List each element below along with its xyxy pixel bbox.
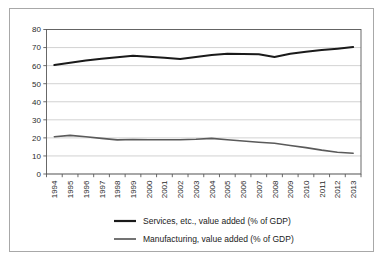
x-tick-label: 2013 [349, 180, 358, 198]
y-axis-ticks [43, 30, 46, 175]
x-tick-label: 2007 [255, 180, 264, 198]
chart-legend: Services, etc., value added (% of GDP)Ma… [114, 216, 294, 244]
y-axis-tick-labels: 01020304050607080 [32, 25, 41, 179]
y-tick-label: 20 [32, 134, 41, 143]
y-tick-label: 60 [32, 62, 41, 71]
x-tick-label: 1998 [113, 180, 122, 198]
x-tick-label: 1997 [98, 180, 107, 198]
x-tick-label: 2012 [333, 180, 342, 198]
x-axis-ticks [47, 174, 362, 177]
x-tick-label: 1994 [50, 180, 59, 198]
legend-label-services: Services, etc., value added (% of GDP) [143, 216, 291, 226]
y-tick-label: 80 [32, 25, 41, 34]
x-tick-label: 2002 [176, 180, 185, 198]
x-tick-label: 2009 [286, 180, 295, 198]
legend-label-manufacturing: Manufacturing, value added (% of GDP) [143, 234, 294, 244]
y-tick-label: 70 [32, 43, 41, 52]
x-tick-label: 2006 [239, 180, 248, 198]
y-tick-label: 50 [32, 80, 41, 89]
x-tick-label: 2005 [223, 180, 232, 198]
y-tick-label: 30 [32, 116, 41, 125]
x-tick-label: 1996 [82, 180, 91, 198]
y-tick-label: 0 [37, 170, 42, 179]
x-tick-label: 2010 [302, 180, 311, 198]
x-tick-label: 1999 [129, 180, 138, 198]
x-axis-tick-labels: 1994199519961997199819992000200120022003… [50, 180, 358, 198]
x-tick-label: 2003 [192, 180, 201, 198]
y-tick-label: 40 [32, 98, 41, 107]
x-tick-label: 2008 [271, 180, 280, 198]
x-tick-label: 2004 [208, 180, 217, 198]
data-series [54, 47, 353, 153]
x-tick-label: 2011 [318, 180, 327, 198]
x-tick-label: 1995 [66, 180, 75, 198]
x-tick-label: 2001 [160, 180, 169, 198]
x-tick-label: 2000 [145, 180, 154, 198]
series-line-services [54, 47, 353, 65]
line-chart: 01020304050607080 1994199519961997199819… [0, 0, 391, 266]
y-tick-label: 10 [32, 152, 41, 161]
chart-figure: 01020304050607080 1994199519961997199819… [0, 0, 391, 266]
